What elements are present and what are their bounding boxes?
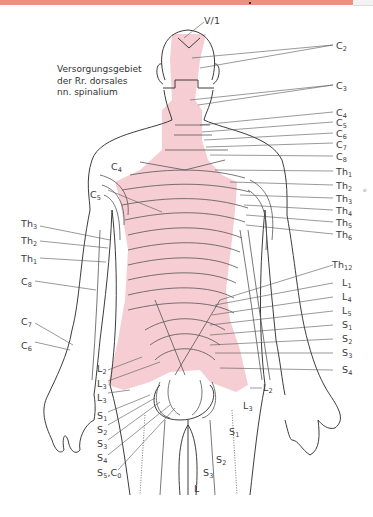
label-lower-s2: S2 bbox=[97, 425, 107, 437]
label-v1: V/1 bbox=[204, 16, 220, 26]
label-th12: Th12 bbox=[332, 260, 353, 272]
label-lower-l3a: L3 bbox=[97, 379, 107, 391]
label-c8: C8 bbox=[336, 152, 347, 164]
label-leg-l3: L3 bbox=[243, 401, 253, 413]
label-lower-l3b: L3 bbox=[97, 393, 107, 405]
label-lower-s5-co: S5,C0 bbox=[97, 468, 122, 480]
label-arm-c8: C8 bbox=[21, 277, 32, 289]
label-l4: L4 bbox=[342, 292, 352, 304]
label-leg-s2: S2 bbox=[216, 455, 226, 467]
label-arm-c5: C5 bbox=[90, 190, 101, 202]
label-leg-s1: S1 bbox=[229, 427, 239, 439]
label-th4: Th4 bbox=[336, 206, 352, 218]
label-arm-c7: C7 bbox=[21, 317, 32, 329]
label-leg-l2: L2 bbox=[263, 383, 273, 395]
label-lower-s3: S3 bbox=[97, 439, 107, 451]
label-th5: Th5 bbox=[336, 218, 352, 230]
label-th3: Th3 bbox=[336, 194, 352, 206]
label-lower-s4: S4 bbox=[97, 453, 107, 465]
stray-mark: e bbox=[363, 186, 367, 193]
dorsal-rami-caption: Versorgungsgebiet der Rr. dorsales nn. s… bbox=[57, 64, 142, 99]
caption-line-3: nn. spinalium bbox=[57, 87, 142, 99]
label-c2: C2 bbox=[336, 41, 347, 53]
dermatome-figure bbox=[0, 0, 373, 517]
label-lower-s1: S1 bbox=[97, 411, 107, 423]
label-th1: Th1 bbox=[336, 167, 352, 179]
label-c3: C3 bbox=[336, 81, 347, 93]
label-arm-th2: Th2 bbox=[21, 236, 37, 248]
label-arm-th3: Th3 bbox=[21, 219, 37, 231]
label-c7: C7 bbox=[336, 140, 347, 152]
label-s2: S2 bbox=[342, 334, 352, 346]
label-lower-l2: L2 bbox=[97, 364, 107, 376]
caption-line-2: der Rr. dorsales bbox=[57, 76, 142, 88]
label-th2: Th2 bbox=[336, 181, 352, 193]
label-l5: L5 bbox=[342, 306, 352, 318]
label-leg-l: L bbox=[194, 484, 199, 494]
label-s1: S1 bbox=[342, 320, 352, 332]
label-arm-c4: C4 bbox=[111, 162, 122, 174]
label-s4: S4 bbox=[342, 365, 352, 377]
label-l1: L1 bbox=[342, 278, 352, 290]
label-th6: Th6 bbox=[336, 230, 352, 242]
label-arm-c6: C6 bbox=[21, 341, 32, 353]
label-arm-th1: Th1 bbox=[21, 254, 37, 266]
label-leg-s3: S3 bbox=[203, 468, 213, 480]
label-s3: S3 bbox=[342, 348, 352, 360]
caption-line-1: Versorgungsgebiet bbox=[57, 64, 142, 76]
